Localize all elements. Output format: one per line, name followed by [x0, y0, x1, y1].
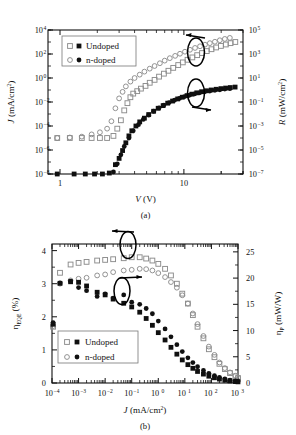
marker-filled-square — [144, 316, 149, 321]
marker-filled-square — [190, 366, 195, 371]
panel-a: 10−810−610−410−210010210410−710−510−310−… — [0, 0, 296, 218]
marker-filled-circle — [190, 360, 195, 365]
svg-text:J (mA/cm2): J (mA/cm2) — [6, 81, 16, 124]
x-tick-label: 10−4 — [45, 388, 60, 398]
panel-a-svg: 10−810−610−410−210010210410−710−510−310−… — [0, 0, 296, 218]
marker-filled-square — [169, 345, 174, 350]
svg-text:5: 5 — [258, 25, 261, 31]
svg-text:−5: −5 — [258, 145, 264, 151]
marker-filled-circle — [51, 320, 56, 325]
svg-text:−2: −2 — [107, 388, 113, 394]
marker-filled-circle — [182, 94, 187, 99]
y-tick-label: 4 — [42, 247, 47, 256]
svg-text:1: 1 — [188, 388, 191, 394]
svg-text:ηP (mW/W): ηP (mW/W) — [273, 292, 285, 335]
marker-filled-square — [185, 362, 190, 367]
marker-filled-circle — [236, 379, 241, 384]
marker-filled-square — [55, 172, 60, 177]
y-tick-label: 2 — [42, 313, 46, 322]
svg-text:10: 10 — [204, 389, 212, 398]
marker-filled-circle — [103, 291, 108, 296]
y2-axis-label: R (mW/cm2) — [277, 79, 287, 126]
svg-text:10: 10 — [35, 122, 43, 131]
y-axis-label: ηEQE (%) — [10, 298, 22, 330]
y2-tick-label: 25 — [246, 248, 254, 257]
marker-filled-square — [75, 340, 80, 345]
x-tick-label: 1 — [58, 179, 62, 188]
x-axis-label: J (mA/cm2) — [124, 405, 167, 415]
marker-filled-circle — [222, 87, 227, 92]
marker-filled-circle — [141, 117, 146, 122]
svg-text:10: 10 — [249, 98, 257, 107]
marker-filled-circle — [227, 86, 232, 91]
panel-b: 01234051015202510−410−310−210−1100101102… — [0, 216, 296, 435]
y2-tick-label: 5 — [246, 353, 250, 362]
legend-label: Undoped — [86, 41, 119, 51]
svg-text:10: 10 — [35, 50, 43, 59]
y2-tick-label: 10−7 — [249, 169, 264, 179]
marker-filled-square — [137, 310, 142, 315]
svg-text:−1: −1 — [133, 388, 139, 394]
marker-filled-circle — [58, 280, 63, 285]
marker-filled-circle — [77, 58, 82, 63]
marker-filled-circle — [185, 355, 190, 360]
marker-filled-circle — [75, 355, 80, 360]
svg-text:10: 10 — [178, 389, 186, 398]
marker-filled-circle — [169, 334, 174, 339]
marker-filled-square — [77, 44, 82, 49]
marker-filled-square — [107, 171, 112, 176]
marker-filled-square — [174, 352, 179, 357]
svg-text:2: 2 — [44, 49, 47, 55]
svg-text:10: 10 — [35, 146, 43, 155]
svg-text:10: 10 — [35, 74, 43, 83]
svg-text:R (mW/cm2): R (mW/cm2) — [277, 79, 287, 126]
figure-container: 10−810−610−410−210010210410−710−510−310−… — [0, 0, 296, 435]
marker-filled-square — [195, 369, 200, 374]
marker-filled-circle — [151, 109, 156, 114]
marker-filled-square — [100, 172, 105, 177]
svg-text:0: 0 — [161, 388, 164, 394]
x-tick-label: 10−3 — [71, 388, 86, 398]
svg-text:10: 10 — [151, 389, 159, 398]
marker-filled-circle — [195, 364, 200, 369]
marker-filled-circle — [150, 311, 155, 316]
svg-text:10: 10 — [231, 389, 239, 398]
marker-filled-circle — [197, 90, 202, 95]
svg-text:10: 10 — [249, 26, 257, 35]
marker-filled-circle — [192, 92, 197, 97]
marker-filled-circle — [156, 319, 161, 324]
svg-text:10: 10 — [249, 122, 257, 131]
x-tick-label: 10−1 — [124, 388, 139, 398]
svg-text:10: 10 — [124, 389, 132, 398]
annotation-arrowhead — [112, 229, 118, 233]
marker-filled-circle — [206, 371, 211, 376]
svg-text:10: 10 — [71, 389, 79, 398]
marker-filled-circle — [217, 375, 222, 380]
x-tick-label: 102 — [204, 388, 218, 398]
svg-text:0: 0 — [44, 73, 47, 79]
y-tick-label: 102 — [35, 49, 47, 59]
marker-filled-circle — [84, 288, 89, 293]
panel-b-legend: Undopedn-doped — [58, 331, 138, 363]
panel-label: (b) — [140, 421, 150, 431]
svg-text:2: 2 — [215, 388, 218, 394]
marker-filled-circle — [212, 373, 217, 378]
marker-filled-circle — [163, 327, 168, 332]
svg-text:10: 10 — [249, 50, 257, 59]
y-tick-label: 100 — [35, 73, 47, 83]
marker-filled-square — [156, 330, 161, 335]
marker-filled-circle — [127, 136, 132, 141]
marker-filled-circle — [167, 100, 172, 105]
marker-filled-circle — [115, 161, 120, 166]
marker-filled-circle — [118, 152, 123, 157]
svg-text:10: 10 — [35, 98, 43, 107]
marker-filled-circle — [162, 103, 167, 108]
marker-filled-square — [84, 284, 89, 289]
marker-filled-circle — [144, 306, 149, 311]
y-tick-label: 104 — [35, 25, 47, 35]
y-tick-label: 10−8 — [35, 169, 50, 179]
marker-filled-circle — [95, 294, 100, 299]
marker-filled-circle — [172, 98, 177, 103]
svg-text:10: 10 — [45, 389, 53, 398]
marker-filled-circle — [146, 113, 151, 118]
